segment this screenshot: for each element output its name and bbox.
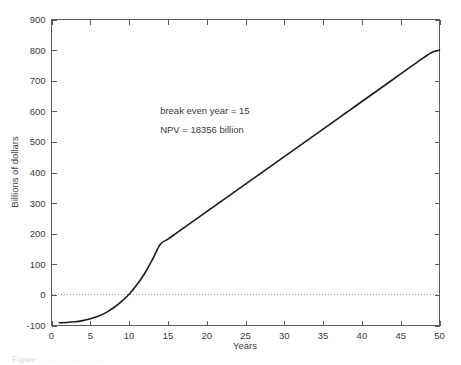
- figure-container: 05101520253035404550 -100010020030040050…: [0, 0, 461, 365]
- y-tick-label: 300: [30, 198, 46, 209]
- y-tick-label: 900: [30, 14, 46, 25]
- figure-caption-strip: Figure . . . . . . . . . . . . . .: [0, 353, 461, 365]
- x-tick-label: 35: [318, 330, 329, 341]
- y-tick-label: 400: [30, 167, 46, 178]
- y-tick-labels: -1000100200300400500600700800900: [26, 14, 45, 331]
- x-tick-label: 5: [88, 330, 93, 341]
- y-axis-title: Billions of dollars: [9, 136, 20, 208]
- x-tick-label: 20: [201, 330, 212, 341]
- npv-annotation: NPV = 18356 billion: [160, 124, 244, 135]
- x-tick-label: 45: [395, 330, 406, 341]
- y-tick-label: 0: [40, 289, 45, 300]
- y-tick-label: 500: [30, 136, 46, 147]
- y-tick-label: 700: [30, 75, 46, 86]
- x-tick-label: 10: [124, 330, 135, 341]
- x-tick-label: 15: [163, 330, 174, 341]
- tick-marks: [52, 20, 441, 327]
- x-tick-label: 40: [357, 330, 368, 341]
- x-tick-labels: 05101520253035404550: [49, 330, 445, 341]
- x-tick-label: 0: [49, 330, 54, 341]
- break-even-annotation: break even year = 15: [160, 105, 250, 116]
- y-tick-label: 200: [30, 228, 46, 239]
- cash-flow-chart: 05101520253035404550 -100010020030040050…: [0, 0, 461, 365]
- x-axis-title: Years: [233, 340, 257, 351]
- y-tick-label: 600: [30, 106, 46, 117]
- x-tick-label: 30: [279, 330, 290, 341]
- plot-axes-frame: [52, 20, 440, 326]
- x-tick-label: 50: [434, 330, 445, 341]
- series-cumulative-cash-flow: [59, 50, 439, 323]
- x-tick-label: 25: [240, 330, 251, 341]
- y-tick-label: -100: [26, 320, 45, 331]
- y-tick-label: 100: [30, 259, 46, 270]
- figure-caption: Figure . . . . . . . . . . . . . .: [12, 354, 104, 364]
- y-tick-label: 800: [30, 45, 46, 56]
